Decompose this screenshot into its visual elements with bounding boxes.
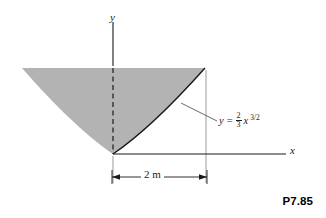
equation-variable: x	[244, 115, 249, 126]
fraction-numerator: 2	[236, 112, 242, 120]
figure-number-label: P7.85	[282, 195, 313, 207]
equation-leader-line	[181, 103, 217, 121]
equation-coefficient-fraction: 2 3	[236, 112, 242, 129]
figure-drawing	[0, 0, 326, 218]
x-axis-label: x	[290, 144, 295, 156]
equation-equals-sign: =	[226, 115, 234, 126]
dimension-label: 2 m	[141, 168, 164, 180]
equation-lhs: y	[219, 115, 224, 126]
figure-container: y x 2 m y = 2 3 x 3/2 P7.85	[0, 0, 326, 218]
curve-equation-label: y = 2 3 x 3/2	[219, 112, 260, 129]
equation-exponent: 3/2	[250, 113, 259, 122]
y-axis-label: y	[110, 11, 115, 23]
fraction-denominator: 3	[236, 120, 242, 129]
